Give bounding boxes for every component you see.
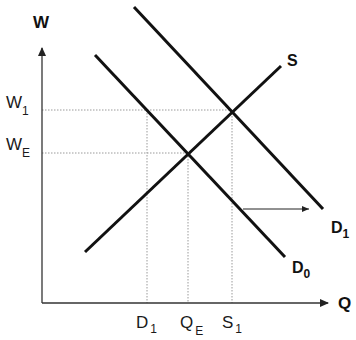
- x-tick-s1: S1: [222, 313, 242, 336]
- y-tick-we-sub: E: [22, 146, 30, 160]
- x-tick-qe-main: Q: [180, 313, 193, 332]
- y-tick-we: WE: [6, 135, 30, 160]
- supply-curve-label: S: [287, 52, 298, 69]
- demand-curve-d0: [95, 55, 285, 257]
- x-tick-qe-sub: E: [195, 324, 203, 338]
- d0-curve-label-sub: 0: [304, 267, 311, 281]
- x-tick-d1: D1: [136, 313, 157, 336]
- d1-curve-label-main: D: [331, 219, 343, 236]
- supply-curve-s: [85, 66, 281, 252]
- d0-curve-label: D0: [292, 259, 311, 281]
- x-tick-qe: QE: [180, 313, 203, 338]
- x-axis-label: Q: [338, 294, 351, 313]
- d1-curve-label: D1: [331, 219, 350, 241]
- y-tick-w1: W1: [6, 93, 29, 118]
- d1-curve-label-sub: 1: [343, 227, 350, 241]
- supply-demand-diagram: W Q S D1 D0 W1 WE D1 QE S1: [0, 0, 356, 340]
- d0-curve-label-main: D: [292, 259, 304, 276]
- x-tick-d1-sub: 1: [150, 322, 157, 336]
- y-axis-label: W: [33, 13, 50, 32]
- y-tick-we-main: W: [6, 135, 22, 154]
- y-tick-w1-main: W: [6, 93, 22, 112]
- x-tick-s1-main: S: [222, 313, 233, 332]
- x-tick-s1-sub: 1: [235, 322, 242, 336]
- y-tick-w1-sub: 1: [22, 104, 29, 118]
- x-tick-d1-main: D: [136, 313, 148, 332]
